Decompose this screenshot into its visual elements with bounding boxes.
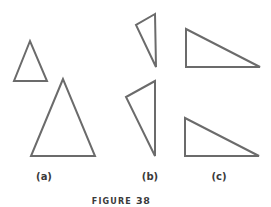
group-a-small-triangle [14,41,47,81]
group-b-small-triangle [136,14,156,67]
group-c-bottom-triangle [185,118,259,156]
label-c: (c) [211,171,226,182]
caption-word: FIGURE [92,197,132,206]
label-b: (b) [142,171,158,182]
label-a: (a) [36,171,52,182]
caption-number: 38 [136,195,150,206]
figure: (a) (b) (c) FIGURE 38 [0,0,271,207]
group-c-top-triangle [186,29,260,67]
group-a-large-triangle [31,79,95,156]
group-b-large-triangle [126,81,155,156]
figure-caption: FIGURE 38 [92,195,151,206]
